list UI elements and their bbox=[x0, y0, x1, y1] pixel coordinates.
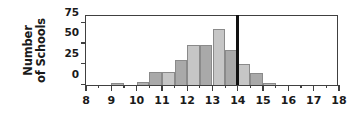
y-axis-tick bbox=[81, 42, 86, 43]
x-axis-tick-label: 13 bbox=[205, 94, 220, 107]
histogram-bar bbox=[111, 83, 124, 85]
y-axis-tick-label: 75 bbox=[64, 6, 79, 18]
histogram-bar bbox=[263, 83, 276, 85]
x-axis-minor-tick bbox=[300, 85, 301, 88]
histogram-bar bbox=[162, 72, 175, 85]
x-axis-tick-label: 9 bbox=[107, 94, 115, 107]
x-axis-tick bbox=[338, 85, 339, 91]
x-axis-tick bbox=[288, 85, 289, 91]
x-axis-tick-label: 11 bbox=[154, 94, 169, 107]
histogram-bar bbox=[238, 64, 251, 85]
y-axis-tick-label: 50 bbox=[64, 26, 79, 38]
x-axis-tick-label: 8 bbox=[82, 94, 90, 107]
x-axis-tick-label: 12 bbox=[180, 94, 195, 107]
x-axis-tick bbox=[262, 85, 263, 91]
x-axis-tick bbox=[313, 85, 314, 91]
y-axis-title: Number of Schools bbox=[14, 10, 54, 90]
histogram-bar bbox=[149, 72, 162, 85]
plot-area: 0255075 89101112131415161718 bbox=[85, 15, 338, 86]
x-axis-minor-tick bbox=[149, 85, 150, 88]
x-axis-minor-tick bbox=[250, 85, 251, 88]
y-axis-tick-label: 0 bbox=[72, 68, 79, 80]
histogram-bar bbox=[200, 45, 213, 85]
histogram-figure: Number of Schools 0255075 89101112131415… bbox=[0, 0, 361, 120]
x-axis-tick bbox=[85, 85, 86, 91]
x-axis-tick-label: 10 bbox=[129, 94, 144, 107]
x-axis-minor-tick bbox=[199, 85, 200, 88]
x-axis-tick-label: 16 bbox=[281, 94, 296, 107]
x-axis-tick-label: 15 bbox=[255, 94, 270, 107]
x-axis-minor-tick bbox=[123, 85, 124, 88]
histogram-bar bbox=[213, 29, 226, 85]
histogram-bar bbox=[250, 73, 263, 85]
x-axis-tick-label: 18 bbox=[331, 94, 346, 107]
x-axis-minor-tick bbox=[275, 85, 276, 88]
y-axis-title-line1: Number bbox=[22, 18, 35, 83]
bars-layer bbox=[86, 16, 337, 85]
x-axis-minor-tick bbox=[326, 85, 327, 88]
histogram-bar bbox=[187, 45, 200, 85]
x-axis-tick-label: 17 bbox=[306, 94, 321, 107]
x-axis-tick bbox=[136, 85, 137, 91]
x-axis-tick bbox=[237, 85, 238, 91]
x-axis-tick-label: 14 bbox=[230, 94, 245, 107]
x-axis-minor-tick bbox=[98, 85, 99, 88]
y-axis-tick-label: 25 bbox=[64, 47, 79, 59]
x-axis-tick bbox=[187, 85, 188, 91]
x-axis-tick bbox=[161, 85, 162, 91]
y-axis-tick bbox=[81, 22, 86, 23]
reference-line bbox=[236, 15, 239, 85]
x-axis-minor-tick bbox=[174, 85, 175, 88]
x-axis-tick bbox=[111, 85, 112, 91]
histogram-bar bbox=[175, 60, 188, 85]
histogram-bar bbox=[137, 82, 150, 85]
x-axis-minor-tick bbox=[225, 85, 226, 88]
y-axis-tick bbox=[81, 63, 86, 64]
y-axis-title-line2: of Schools bbox=[34, 18, 47, 83]
x-axis-tick bbox=[212, 85, 213, 91]
